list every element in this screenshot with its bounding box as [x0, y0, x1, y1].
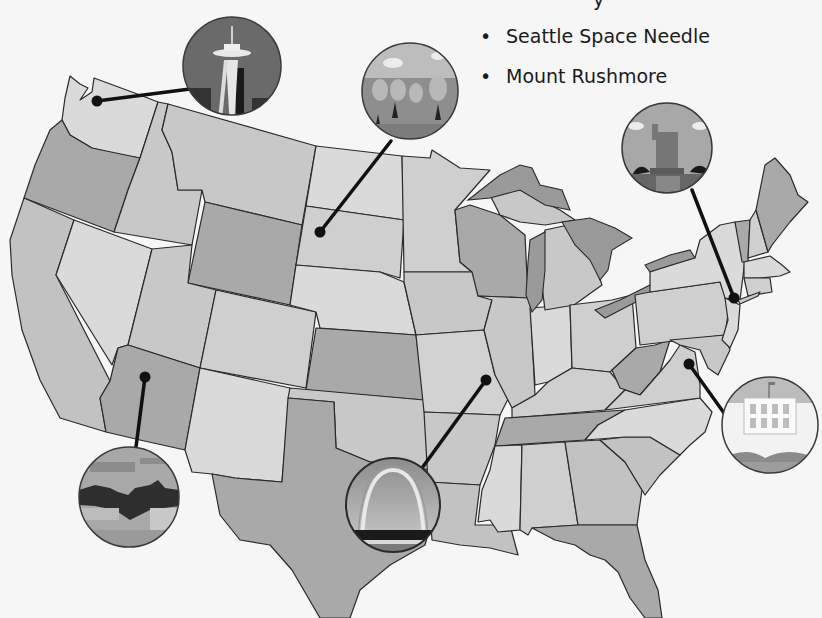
lake-michigan — [526, 232, 545, 312]
marker-grandcanyon[interactable] — [140, 372, 151, 383]
mount-rushmore-icon[interactable] — [360, 40, 460, 140]
us-map — [0, 0, 822, 618]
statue-of-liberty-icon[interactable] — [620, 100, 715, 199]
state-maine — [756, 158, 808, 252]
marker-rushmore[interactable] — [315, 227, 326, 238]
white-house-icon[interactable] — [720, 375, 820, 477]
state-massachusetts — [744, 256, 790, 278]
grand-canyon-icon[interactable] — [79, 447, 179, 548]
states-west — [10, 76, 316, 482]
marker-arch[interactable] — [481, 375, 492, 386]
state-florida — [532, 525, 662, 618]
marker-liberty[interactable] — [729, 293, 740, 304]
space-needle-icon[interactable] — [180, 15, 285, 128]
state-kansas — [306, 328, 424, 400]
state-new-mexico — [185, 368, 290, 482]
marker-seattle[interactable] — [92, 96, 103, 107]
marker-whitehouse[interactable] — [684, 359, 695, 370]
